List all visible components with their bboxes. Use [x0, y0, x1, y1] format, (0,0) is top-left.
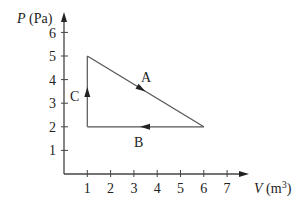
y-tick-label: 2: [49, 120, 56, 135]
x-tick-label: 7: [224, 181, 231, 196]
y-tick-label: 5: [49, 49, 56, 64]
x-tick-label: 6: [200, 181, 207, 196]
x-tick-label: 5: [177, 181, 184, 196]
x-tick-label: 4: [154, 181, 161, 196]
x-axis-arrow-icon: [239, 171, 249, 177]
y-tick-label: 4: [49, 73, 56, 88]
process-B-arrow-icon: [140, 124, 150, 130]
x-axis-label: V (m3): [254, 179, 292, 197]
process-A-label: A: [141, 70, 152, 85]
pv-diagram: 1 2 3 4 5 6 7 1 2 3 4 5 6 P (Pa) V (m3) …: [0, 0, 304, 203]
process-C-label: C: [70, 89, 79, 104]
x-tick-labels: 1 2 3 4 5 6 7: [84, 181, 231, 196]
x-tick-label: 2: [107, 181, 114, 196]
y-tick-label: 3: [49, 96, 56, 111]
x-tick-label: 1: [84, 181, 91, 196]
thermo-cycle: [87, 56, 204, 127]
y-tick-label: 6: [49, 26, 56, 41]
process-C-arrow-icon: [84, 87, 90, 97]
x-tick-label: 3: [130, 181, 137, 196]
y-tick-label: 1: [49, 143, 56, 158]
y-axis-arrow-icon: [61, 12, 67, 22]
process-A-line: [87, 56, 204, 127]
y-axis-label: P (Pa): [16, 11, 53, 27]
y-tick-labels: 1 2 3 4 5 6: [49, 26, 56, 159]
process-B-label: B: [134, 135, 143, 150]
